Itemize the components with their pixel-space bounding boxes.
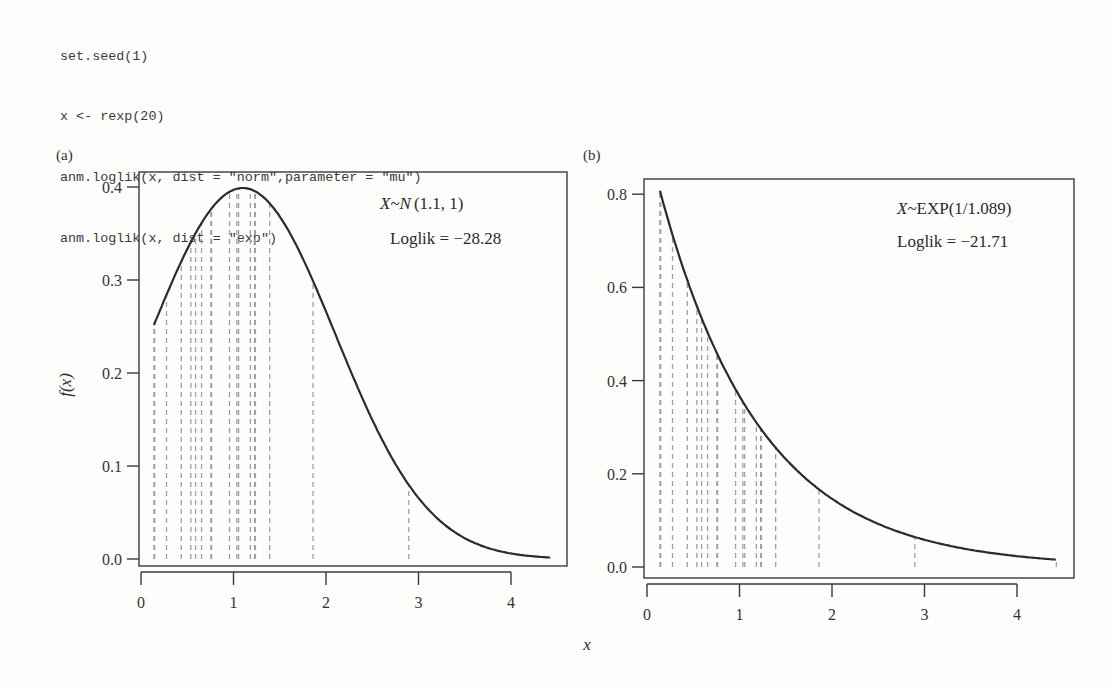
plot-frame-b	[644, 179, 1074, 578]
y-tick-label: 0.3	[102, 272, 122, 289]
x-axis-a: 01234	[137, 572, 515, 611]
x-tick-label: 1	[736, 606, 744, 623]
x-tick-label: 4	[507, 594, 515, 611]
x-tick-label: 2	[322, 594, 330, 611]
panel-label-b: (b)	[583, 147, 601, 164]
dist-var: X	[379, 194, 391, 213]
y-tick-label: 0.6	[607, 279, 627, 296]
x-tick-label: 0	[643, 606, 651, 623]
x-tick-label: 2	[828, 606, 836, 623]
y-tick-label: 0.4	[102, 179, 122, 196]
annotation-loglik-a: Loglik = −28.28	[390, 229, 501, 248]
x-tick-label: 3	[415, 594, 423, 611]
x-axis-label: x	[582, 635, 591, 654]
y-tick-label: 0.2	[607, 466, 627, 483]
y-tick-label: 0.0	[607, 559, 627, 576]
dist-params: (1.1, 1)	[414, 194, 464, 213]
plot-frame-a	[139, 172, 567, 566]
panel-b-exponential: (b) 0.00.20.40.60.8 01234 X~EXP(1/1.089)…	[583, 147, 1074, 623]
y-tick-label: 0.2	[102, 365, 122, 382]
x-tick-label: 4	[1013, 606, 1021, 623]
panel-label-a: (a)	[56, 147, 73, 164]
x-tick-label: 0	[137, 594, 145, 611]
annotation-loglik-b: Loglik = −21.71	[897, 232, 1008, 251]
dist-var: X	[896, 199, 908, 218]
panel-a-normal: (a) 0.00.10.20.30.4 01234 X~N(1.1, 1) Lo…	[56, 147, 567, 611]
dist-name: ~EXP(1/1.089)	[907, 199, 1011, 218]
y-axis-a: 0.00.10.20.30.4	[102, 179, 139, 568]
x-axis-b: 01234	[643, 584, 1021, 623]
y-tick-label: 0.4	[607, 373, 627, 390]
annotation-distribution-a: X~N(1.1, 1)	[379, 194, 464, 213]
x-tick-label: 1	[230, 594, 238, 611]
y-axis-b: 0.00.20.40.60.8	[607, 186, 644, 576]
x-tick-label: 3	[921, 606, 929, 623]
y-tick-label: 0.8	[607, 186, 627, 203]
y-tick-label: 0.0	[102, 551, 122, 568]
figure: (a) 0.00.10.20.30.4 01234 X~N(1.1, 1) Lo…	[0, 0, 1114, 689]
y-axis-label: f(x)	[56, 373, 75, 397]
y-tick-label: 0.1	[102, 458, 122, 475]
annotation-distribution-b: X~EXP(1/1.089)	[896, 199, 1012, 218]
dist-name: N	[399, 194, 413, 213]
